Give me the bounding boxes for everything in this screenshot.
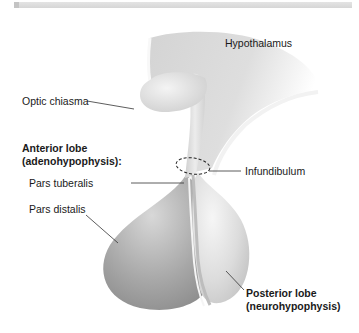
label-posterior-lobe-line2: (neurohypophysis) [246, 300, 341, 313]
label-posterior-lobe-line1: Posterior lobe [246, 287, 317, 300]
leader-optic-chiasma [87, 101, 134, 109]
label-anterior-lobe-line1: Anterior lobe [22, 142, 87, 155]
label-hypothalamus: Hypothalamus [225, 37, 292, 50]
leader-pars-distalis [86, 215, 118, 243]
label-anterior-lobe-line2: (adenohypophysis): [22, 155, 122, 168]
label-optic-chiasma: Optic chiasma [22, 95, 89, 108]
label-pars-tuberalis: Pars tuberalis [29, 177, 93, 190]
label-pars-distalis: Pars distalis [29, 203, 86, 216]
label-infundibulum: Infundibulum [245, 165, 305, 178]
